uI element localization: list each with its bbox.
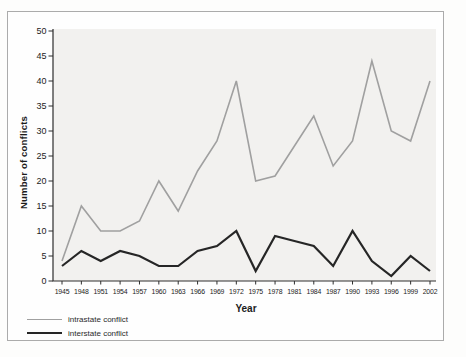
x-tick-label: 2002 bbox=[423, 288, 438, 295]
x-tick-label: 1945 bbox=[55, 288, 70, 295]
interstate-line-swatch bbox=[27, 332, 62, 334]
x-tick-label: 1963 bbox=[171, 288, 186, 295]
x-tick-label: 1978 bbox=[268, 288, 283, 295]
y-tick-label: 25 bbox=[36, 151, 46, 161]
x-tick-label: 1975 bbox=[248, 288, 263, 295]
x-axis-title: Year bbox=[196, 303, 296, 314]
x-tick-label: 1984 bbox=[307, 288, 322, 295]
x-tick-label: 1954 bbox=[113, 288, 128, 295]
x-tick-label: 1972 bbox=[229, 288, 244, 295]
x-tick-label: 1987 bbox=[326, 288, 341, 295]
y-axis-title: Number of conflicts bbox=[18, 108, 29, 218]
y-tick-label: 35 bbox=[36, 101, 46, 111]
x-tick-label: 1990 bbox=[345, 288, 360, 295]
x-tick-label: 1948 bbox=[74, 288, 89, 295]
x-tick-label: 1951 bbox=[93, 288, 108, 295]
x-tick-label: 1969 bbox=[210, 288, 225, 295]
x-tick-label: 1993 bbox=[365, 288, 380, 295]
legend-label-intrastate: intrastate conflict bbox=[68, 315, 128, 324]
y-tick-label: 40 bbox=[36, 76, 46, 86]
plot-area bbox=[53, 29, 436, 281]
y-tick-label: 45 bbox=[36, 51, 46, 61]
x-tick-label: 1966 bbox=[190, 288, 205, 295]
y-tick-label: 30 bbox=[36, 126, 46, 136]
legend: intrastate conflict interstate conflict bbox=[27, 312, 128, 340]
y-tick-label: 15 bbox=[36, 201, 46, 211]
x-tick-label: 1996 bbox=[384, 288, 399, 295]
legend-item-intrastate: intrastate conflict bbox=[27, 312, 128, 326]
x-tick-label: 1981 bbox=[287, 288, 302, 295]
x-tick-label: 1960 bbox=[152, 288, 167, 295]
legend-label-interstate: interstate conflict bbox=[68, 329, 128, 338]
x-tick-label: 1957 bbox=[132, 288, 147, 295]
y-tick-label: 0 bbox=[41, 276, 46, 286]
y-tick-label: 20 bbox=[36, 176, 46, 186]
legend-item-interstate: interstate conflict bbox=[27, 326, 128, 340]
x-tick-label: 1999 bbox=[403, 288, 418, 295]
y-tick-label: 10 bbox=[36, 226, 46, 236]
intrastate-line-swatch bbox=[27, 319, 62, 320]
y-tick-label: 5 bbox=[41, 251, 46, 261]
y-tick-label: 50 bbox=[36, 26, 46, 36]
